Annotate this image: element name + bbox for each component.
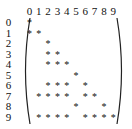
star-cell: * (34, 29, 43, 39)
column-header: 2 (44, 5, 53, 17)
star-cell: * (62, 81, 71, 91)
star-cell: * (53, 81, 62, 91)
star-cell: * (72, 102, 81, 112)
row-label: 9 (4, 112, 13, 123)
column-header: 3 (53, 5, 62, 17)
column-header: 5 (72, 5, 81, 17)
star-cell: * (53, 50, 62, 60)
star-cell: * (44, 50, 53, 60)
star-cell: * (44, 39, 53, 49)
column-header: 0 (25, 5, 34, 17)
star-cell: * (81, 92, 90, 102)
star-cell: * (44, 60, 53, 70)
star-cell: * (62, 60, 71, 70)
star-cell: * (72, 71, 81, 81)
star-cell: * (62, 92, 71, 102)
star-cell: * (25, 18, 34, 28)
star-cell: * (25, 29, 34, 39)
star-cell: * (99, 113, 108, 123)
column-header: 1 (34, 5, 43, 17)
star-cell: * (90, 92, 99, 102)
star-cell: * (109, 113, 118, 123)
star-cell: * (90, 113, 99, 123)
star-cell: * (34, 92, 43, 102)
column-header: 7 (90, 5, 99, 17)
star-cell: * (81, 81, 90, 91)
star-cell: * (53, 60, 62, 70)
column-header: 4 (62, 5, 71, 17)
star-cell: * (44, 113, 53, 123)
column-header: 8 (99, 5, 108, 17)
star-cell: * (53, 113, 62, 123)
star-cell: * (53, 92, 62, 102)
star-cell: * (99, 102, 108, 112)
star-cell: * (44, 81, 53, 91)
star-cell: * (44, 92, 53, 102)
star-cell: * (81, 113, 90, 123)
right-parenthesis (114, 17, 128, 125)
star-cell: * (62, 113, 71, 123)
column-header: 6 (81, 5, 90, 17)
star-cell: * (34, 113, 43, 123)
column-header: 9 (109, 5, 118, 17)
